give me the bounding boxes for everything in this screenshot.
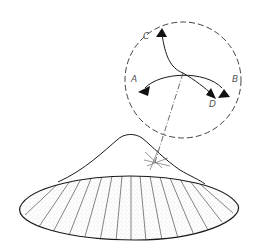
arc-c-to-d [162, 34, 213, 95]
label-d: D [209, 99, 216, 109]
dash-dot-projection-line [155, 73, 183, 162]
volcano-direction-diagram: A B C D [0, 0, 261, 250]
impact-marker-icon [144, 150, 170, 170]
arrowhead-d-icon [206, 88, 216, 99]
arrowhead-c-icon [156, 28, 167, 37]
cone-base [20, 176, 239, 241]
label-a: A [130, 74, 137, 84]
label-b: B [232, 74, 238, 84]
label-c: C [143, 31, 150, 41]
arc-a-to-b [145, 75, 222, 88]
arrowhead-a-icon [138, 86, 150, 96]
arrowhead-b-icon [218, 89, 230, 98]
